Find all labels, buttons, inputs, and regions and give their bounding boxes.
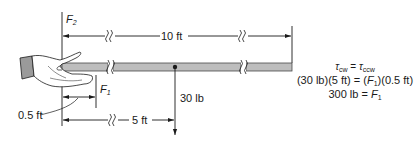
dimension-0.5ft bbox=[40, 97, 95, 115]
f2-label: F2 bbox=[66, 13, 77, 25]
equation-substitution: (30 lb)(5 ft) = (F1)(0.5 ft) bbox=[296, 74, 414, 87]
break-mark-icon bbox=[239, 30, 246, 42]
length-weight-label: 5 ft bbox=[131, 114, 148, 126]
length-total-label: 10 ft bbox=[160, 30, 183, 42]
break-mark-icon bbox=[106, 30, 113, 42]
break-mark-icon bbox=[109, 114, 116, 126]
f1-label: F1 bbox=[100, 83, 111, 95]
center-of-mass-dot bbox=[173, 65, 177, 69]
equation-result: 300 lb = F1 bbox=[296, 88, 414, 101]
dimension-5ft bbox=[63, 114, 174, 126]
equation-torque-balance: τcw = τccw bbox=[296, 60, 414, 73]
length-grip-label: 0.5 ft bbox=[18, 109, 42, 121]
weight-label: 30 lb bbox=[180, 92, 204, 104]
